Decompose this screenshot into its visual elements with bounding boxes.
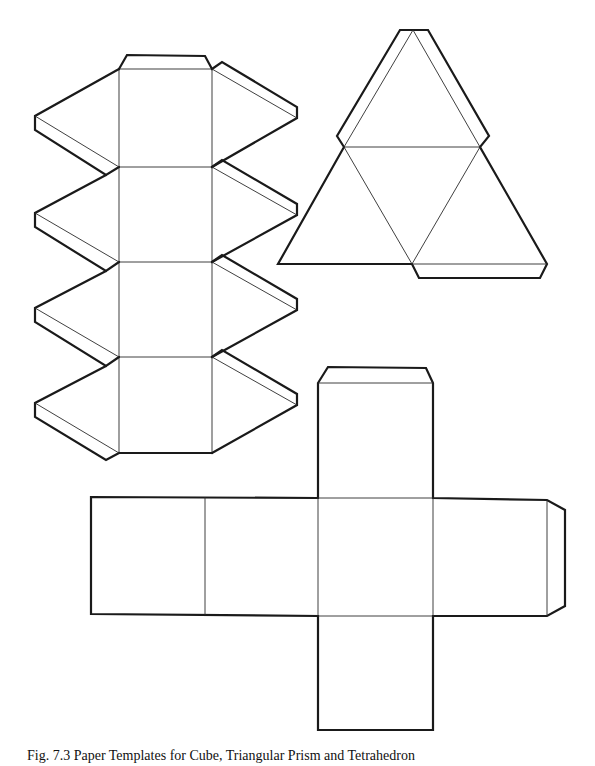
tetrahedron-outline [278,30,547,278]
tetrahedron-net [278,30,547,278]
prism-net [35,55,297,460]
prism-right-flaps [212,62,297,453]
cube-outline [91,367,565,730]
prism-left-flaps [35,69,119,460]
prism-top-tab [119,55,212,69]
cube-net [91,367,565,730]
prism-column [119,69,212,453]
figure-caption: Fig. 7.3 Paper Templates for Cube, Trian… [27,746,415,766]
